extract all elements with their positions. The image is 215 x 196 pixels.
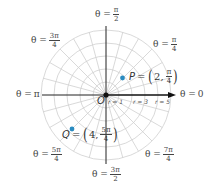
fraction: π 2 xyxy=(113,6,120,23)
fraction: π 4 xyxy=(166,68,173,85)
equals-sign: = xyxy=(72,130,80,140)
fraction: π 4 xyxy=(171,36,178,53)
label-prefix: θ = xyxy=(153,40,169,49)
fraction-denominator: 2 xyxy=(113,175,117,183)
close-paren: ) xyxy=(173,68,178,85)
fraction-denominator: 4 xyxy=(54,155,58,163)
fraction-numerator: 7π xyxy=(163,146,174,155)
label-prefix: θ = xyxy=(180,90,196,99)
fraction-denominator: 4 xyxy=(52,41,56,49)
open-paren: ( xyxy=(148,68,153,85)
label-prefix: θ = xyxy=(145,150,161,159)
fraction: 5π 4 xyxy=(51,146,62,163)
label-value: π xyxy=(34,90,40,99)
fraction-numerator: π xyxy=(166,68,173,77)
fraction-numerator: π xyxy=(113,6,120,15)
fraction: 7π 4 xyxy=(163,146,174,163)
label-theta-pi: θ = π xyxy=(16,90,42,99)
point-name: Q xyxy=(62,130,70,140)
radius-label-3: r = 3 xyxy=(133,98,148,105)
label-prefix: θ = xyxy=(31,36,47,45)
fraction-denominator: 2 xyxy=(114,15,118,23)
fraction-denominator: 4 xyxy=(104,135,108,143)
radius-label-5: r = 5 xyxy=(155,98,170,105)
comma: , xyxy=(95,130,98,140)
fraction: 3π 2 xyxy=(110,166,121,183)
equals-sign: = xyxy=(137,72,145,82)
open-paren: ( xyxy=(83,126,88,143)
fraction-denominator: 4 xyxy=(166,155,170,163)
point-name: P xyxy=(129,72,135,82)
comma: , xyxy=(160,72,163,82)
fraction-denominator: 4 xyxy=(172,45,176,53)
label-theta-3pi-over-2: θ = 3π 2 xyxy=(92,166,121,183)
fraction-numerator: 3π xyxy=(110,166,121,175)
label-theta-0: θ = 0 xyxy=(180,90,206,99)
label-prefix: θ = xyxy=(92,170,108,179)
label-prefix: θ = xyxy=(16,90,32,99)
fraction-numerator: 3π xyxy=(49,32,60,41)
origin-label: O xyxy=(97,96,105,106)
fraction-denominator: 4 xyxy=(167,77,171,85)
fraction-numerator: 5π xyxy=(100,126,111,135)
label-prefix: θ = xyxy=(95,10,111,19)
label-theta-5pi-over-4: θ = 5π 4 xyxy=(33,146,62,163)
fraction: 3π 4 xyxy=(49,32,60,49)
point-p-label: P = ( 2, π 4 ) xyxy=(129,68,179,85)
label-theta-7pi-over-4: θ = 7π 4 xyxy=(145,146,174,163)
label-theta-pi-over-4: θ = π 4 xyxy=(153,36,177,53)
point-p-dot xyxy=(120,76,125,81)
label-theta-3pi-over-4: θ = 3π 4 xyxy=(31,32,60,49)
radius-label-1: r = 1 xyxy=(108,98,123,105)
label-theta-pi-over-2: θ = π 2 xyxy=(95,6,119,23)
label-prefix: θ = xyxy=(33,150,49,159)
fraction: 5π 4 xyxy=(100,126,111,143)
fraction-numerator: π xyxy=(171,36,178,45)
label-value: 0 xyxy=(198,90,204,99)
fraction-numerator: 5π xyxy=(51,146,62,155)
point-q-label: Q = ( 4, 5π 4 ) xyxy=(62,126,118,143)
origin-label-text: O xyxy=(97,96,105,106)
close-paren: ) xyxy=(113,126,118,143)
